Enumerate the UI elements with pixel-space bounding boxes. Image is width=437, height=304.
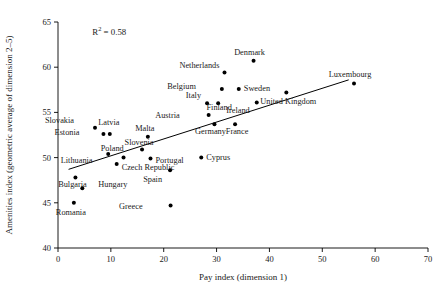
data-point-label: Luxembourg bbox=[329, 70, 372, 79]
data-point-label: Germany bbox=[195, 127, 227, 136]
data-point-label: Denmark bbox=[234, 48, 266, 57]
x-tick-label: 40 bbox=[265, 254, 274, 264]
data-point bbox=[252, 59, 256, 63]
data-point bbox=[149, 157, 153, 161]
y-tick-label: 60 bbox=[43, 62, 52, 72]
x-tick-label: 50 bbox=[318, 254, 327, 264]
x-tick-label: 10 bbox=[107, 254, 116, 264]
data-point bbox=[199, 156, 203, 160]
data-point bbox=[352, 81, 356, 85]
data-point-label: United Kingdom bbox=[260, 97, 317, 106]
x-axis-title: Pay index (dimension 1) bbox=[199, 272, 287, 282]
data-point bbox=[101, 132, 105, 136]
data-point-label: Slovakia bbox=[45, 116, 74, 125]
data-point-label: Malta bbox=[135, 124, 155, 133]
data-point bbox=[223, 71, 227, 75]
data-point bbox=[80, 186, 84, 190]
data-point bbox=[108, 132, 112, 136]
data-point-label: Netherlands bbox=[179, 61, 219, 70]
scatter-chart: 010203040506070404550556065Pay index (di… bbox=[0, 0, 437, 304]
data-point-label: Hungary bbox=[98, 180, 128, 189]
data-point-label: Belgium bbox=[167, 82, 196, 91]
x-tick-label: 0 bbox=[56, 254, 60, 264]
data-point-label: Romania bbox=[56, 208, 86, 217]
x-tick-label: 70 bbox=[424, 254, 433, 264]
data-point bbox=[140, 147, 144, 151]
data-point-label: Cyprus bbox=[206, 153, 230, 162]
data-point-label: Portugal bbox=[156, 156, 185, 165]
data-point-label: Sweden bbox=[244, 84, 271, 93]
y-tick-label: 50 bbox=[43, 153, 52, 163]
data-point bbox=[255, 100, 259, 104]
y-tick-label: 65 bbox=[43, 17, 52, 27]
data-point-label: Ireland bbox=[226, 106, 250, 115]
data-point bbox=[237, 87, 241, 91]
data-point bbox=[168, 168, 172, 172]
data-point-label: France bbox=[226, 127, 249, 136]
data-point bbox=[115, 162, 119, 166]
data-point bbox=[146, 135, 150, 139]
data-point bbox=[220, 87, 224, 91]
data-point bbox=[207, 113, 211, 117]
y-axis-title: Amenities index (geometric average of di… bbox=[4, 36, 14, 235]
data-point-label: Estonia bbox=[55, 128, 80, 137]
x-tick-label: 60 bbox=[371, 254, 380, 264]
y-tick-label: 40 bbox=[43, 243, 52, 253]
data-point bbox=[233, 122, 237, 126]
y-tick-label: 45 bbox=[43, 198, 52, 208]
data-point bbox=[93, 126, 97, 130]
plot-area: 010203040506070404550556065Pay index (di… bbox=[0, 0, 437, 304]
x-tick-label: 20 bbox=[159, 254, 168, 264]
data-point-label: Austria bbox=[155, 111, 180, 120]
data-point-label: Greece bbox=[119, 202, 143, 211]
data-point-label: Latvia bbox=[98, 118, 120, 127]
data-point-label: Poland bbox=[101, 144, 125, 153]
data-point-label: Italy bbox=[186, 91, 202, 100]
data-point-label: Slovenia bbox=[125, 138, 154, 147]
data-point bbox=[73, 175, 77, 179]
data-point bbox=[72, 201, 76, 205]
r-squared-annotation: R2 = 0.58 bbox=[92, 25, 126, 36]
x-tick-label: 30 bbox=[212, 254, 221, 264]
data-point bbox=[122, 156, 126, 160]
data-point bbox=[212, 122, 216, 126]
data-point bbox=[284, 91, 288, 95]
data-point-label: Spain bbox=[143, 175, 163, 184]
data-point bbox=[169, 204, 173, 208]
data-point-label: Lithuania bbox=[61, 156, 93, 165]
